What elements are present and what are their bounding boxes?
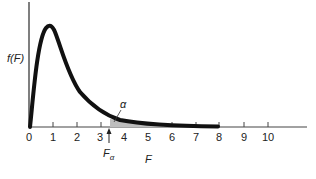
svg-text:5: 5	[145, 131, 151, 143]
svg-text:9: 9	[241, 131, 247, 143]
x-tick-labels: 0 1 2 3 4 5 6 7 8 9 10	[26, 131, 274, 143]
svg-text:8: 8	[216, 131, 222, 143]
svg-text:3: 3	[97, 131, 103, 143]
f-distribution-chart: 0 1 2 3 4 5 6 7 8 9 10 f(F) F α Fα	[0, 0, 316, 179]
svg-text:7: 7	[193, 131, 199, 143]
alpha-label: α	[120, 98, 127, 110]
x-axis-label: F	[145, 153, 153, 165]
f-alpha-arrowhead	[107, 128, 112, 134]
y-axis-label: f(F)	[7, 52, 24, 64]
svg-text:1: 1	[50, 131, 56, 143]
svg-text:2: 2	[74, 131, 80, 143]
svg-text:10: 10	[262, 131, 274, 143]
f-alpha-label: Fα	[103, 147, 115, 162]
svg-text:4: 4	[121, 131, 127, 143]
density-curve	[30, 26, 218, 127]
svg-text:6: 6	[169, 131, 175, 143]
svg-text:0: 0	[26, 131, 32, 143]
